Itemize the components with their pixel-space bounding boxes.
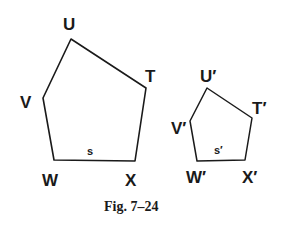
vertex-label-U-prime: U′: [200, 67, 216, 86]
figure-caption: Fig. 7–24: [104, 199, 158, 214]
side-label-s: s: [87, 145, 93, 157]
vertex-label-T: T: [145, 67, 156, 86]
vertex-label-W: W: [42, 171, 59, 190]
large-pentagon: [43, 39, 146, 161]
vertex-label-V: V: [20, 93, 32, 112]
figure-canvas: U T V W X s U′ T′ V′ W′ X′ s′ Fig. 7–24: [0, 0, 282, 226]
vertex-label-U: U: [63, 15, 75, 34]
figure-svg: U T V W X s U′ T′ V′ W′ X′ s′ Fig. 7–24: [0, 0, 282, 226]
vertex-label-W-prime: W′: [186, 168, 206, 187]
vertex-label-X: X: [125, 171, 137, 190]
vertex-label-T-prime: T′: [252, 99, 266, 118]
vertex-label-V-prime: V′: [171, 119, 186, 138]
side-label-s-prime: s′: [214, 144, 223, 156]
vertex-label-X-prime: X′: [242, 168, 257, 187]
